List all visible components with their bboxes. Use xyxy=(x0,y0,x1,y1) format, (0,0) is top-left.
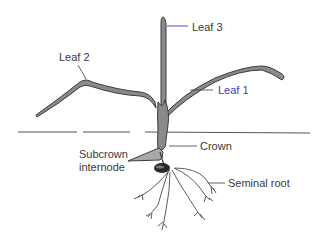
label-seminal-root: Seminal root xyxy=(228,177,290,189)
seedling-illustration xyxy=(0,0,322,243)
leaf-2-shape xyxy=(36,80,156,117)
label-crown: Crown xyxy=(200,140,232,152)
label-leaf-2: Leaf 2 xyxy=(59,51,90,63)
subcrown-internode-shape xyxy=(128,148,163,161)
seedling-diagram: Leaf 2 Leaf 3 Leaf 1 Crown Subcrown inte… xyxy=(0,0,322,243)
stem-shape xyxy=(158,100,169,150)
label-subcrown-line2: internode xyxy=(79,161,125,173)
leaf-2-leader xyxy=(78,65,86,79)
label-subcrown-line1: Subcrown xyxy=(79,148,128,160)
label-leaf-3: Leaf 3 xyxy=(192,21,223,33)
seminal-roots xyxy=(134,168,216,230)
label-leaf-1: Leaf 1 xyxy=(218,84,249,96)
